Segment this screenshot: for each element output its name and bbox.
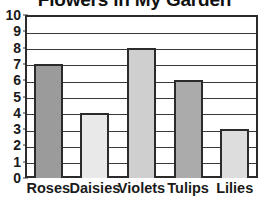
bar-chart-screenshot: Flowers in My Garden 012345678910 RosesD… [0,0,269,201]
y-tick-label: 0 [13,171,21,185]
x-tick-label-daisies: Daisies [69,179,120,197]
y-tick-label: 9 [13,24,21,38]
y-tick-label: 10 [5,8,21,22]
y-tick-label: 6 [13,73,21,87]
bar-violets[interactable] [127,48,156,178]
y-tick-label: 1 [13,155,21,169]
chart-title: Flowers in My Garden [0,0,269,13]
y-tick-label: 8 [13,41,21,55]
bar-tulips[interactable] [174,80,203,178]
x-tick-label-violets: Violets [118,179,165,197]
bar-lilies[interactable] [220,129,249,178]
y-tick-label: 5 [13,90,21,104]
y-tick-label: 4 [13,106,21,120]
bar-daisies[interactable] [80,113,109,178]
bar-roses[interactable] [34,64,63,178]
y-tick-label: 3 [13,122,21,136]
x-tick-label-tulips: Tulips [167,179,209,197]
y-tick-label: 2 [13,138,21,152]
x-axis: RosesDaisiesVioletsTulipsLilies [25,179,258,201]
bars-layer [25,15,258,178]
x-tick-label-lilies: Lilies [216,179,253,197]
y-axis: 012345678910 [0,15,23,178]
y-tick-label: 7 [13,57,21,71]
x-tick-label-roses: Roses [27,179,71,197]
